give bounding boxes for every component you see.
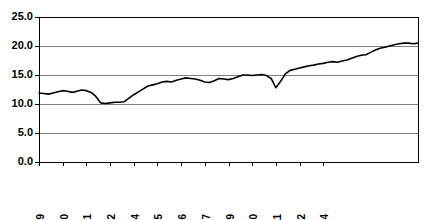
x-axis-tick-label: Sep.2001 bbox=[82, 214, 93, 220]
y-axis-tick-label: 0.0 bbox=[18, 155, 33, 167]
y-axis-tick-label: 25.0 bbox=[12, 10, 33, 22]
plot-frame bbox=[39, 17, 419, 163]
x-axis-tick-label: Sep.2006 bbox=[177, 214, 188, 220]
data-series-line bbox=[39, 43, 418, 103]
y-axis-tick-label: 5.0 bbox=[18, 126, 33, 138]
x-axis-tick-label: Mar.2014 bbox=[319, 214, 330, 220]
y-axis-tickmarks bbox=[35, 18, 39, 163]
chart-canvas: 0.05.010.015.020.025.0 Mar.1999Jun.2000S… bbox=[0, 0, 435, 220]
x-axis-tick-label: Mar.2004 bbox=[130, 214, 141, 220]
x-axis-tick-label: Jun.2010 bbox=[248, 214, 259, 220]
x-axis-tick-label: Mar.1999 bbox=[35, 214, 46, 220]
line-chart: 0.05.010.015.020.025.0 Mar.1999Jun.2000S… bbox=[0, 0, 435, 220]
x-axis-tick-label: Jun.2000 bbox=[59, 214, 70, 220]
x-axis-tick-label: Mar.2009 bbox=[225, 214, 236, 220]
x-axis-tick-label: Dec.2012 bbox=[296, 214, 307, 220]
x-axis-tick-label: Jun.2005 bbox=[153, 214, 164, 220]
y-axis-tick-label: 10.0 bbox=[12, 97, 33, 109]
x-axis-tick-labels: Mar.1999Jun.2000Sep.2001Dec.2002Mar.2004… bbox=[35, 214, 330, 220]
y-axis-tick-label: 15.0 bbox=[12, 68, 33, 80]
x-axis-tick-label: Dec.2007 bbox=[201, 214, 212, 220]
y-axis-tick-label: 20.0 bbox=[12, 39, 33, 51]
x-axis-tick-label: Sep.2011 bbox=[272, 214, 283, 220]
x-axis-tick-label: Dec.2002 bbox=[106, 214, 117, 220]
series-line-value bbox=[39, 43, 418, 103]
gridlines-group bbox=[39, 18, 418, 163]
y-axis-tick-labels: 0.05.010.015.020.025.0 bbox=[12, 10, 33, 167]
